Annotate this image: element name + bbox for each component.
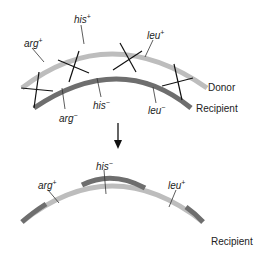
leader-his-plus [81,25,84,44]
label-donor: Donor [208,83,235,93]
donor-strand [22,54,207,88]
label-leu-minus: leu− [148,104,165,116]
gene-sign: − [73,112,77,119]
gene-name: his [96,161,109,172]
label-his-plus: his+ [74,13,91,25]
gene-name: arg [24,38,38,49]
leader-bottom-his-minus [104,170,106,194]
label-arg-minus: arg− [59,112,78,124]
gene-name: arg [59,113,73,124]
gene-name: his [74,14,87,25]
label-bottom-arg-plus: arg+ [38,179,57,191]
down-arrow-icon [114,123,122,149]
label-bottom-his-minus: his− [96,160,113,172]
gene-sign: − [109,160,113,167]
gene-sign: + [181,179,185,186]
label-arg-plus: arg+ [24,37,43,49]
gene-sign: − [106,99,110,106]
gene-sign: + [52,179,56,186]
leader-arg-plus [32,48,44,62]
gene-sign: − [161,104,165,111]
gene-name: arg [38,180,52,191]
gene-sign: + [160,29,164,36]
gene-name: leu [147,30,160,41]
label-leu-plus: leu+ [147,29,164,41]
gene-name: leu [148,105,161,116]
label-his-minus: his− [93,99,110,111]
leader-leu-minus [153,87,156,103]
gene-name: leu [168,180,181,191]
leader-leu-plus [145,40,153,57]
label-bottom-leu-plus: leu+ [168,179,185,191]
gene-name: his [93,100,106,111]
recipient-strand [34,79,191,108]
label-recipient-bottom: Recipient [211,237,253,247]
label-recipient-top: Recipient [196,104,238,114]
gene-sign: + [38,37,42,44]
gene-sign: + [87,13,91,20]
